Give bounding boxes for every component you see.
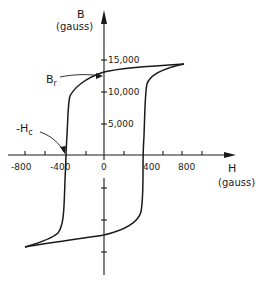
h-tick-800: 800	[178, 162, 195, 172]
hc-label: -Hc	[16, 122, 33, 137]
hc-leader	[40, 132, 64, 152]
b-axis-unit: (gauss)	[56, 21, 93, 32]
hc-arrow-icon	[60, 146, 66, 154]
h-tick-400: 400	[143, 162, 160, 172]
h-axis-arrow-icon	[224, 152, 236, 158]
br-label: Br	[46, 73, 58, 88]
b-tick-5000: 5,000	[108, 119, 134, 129]
h-axis-ticks	[25, 151, 202, 155]
b-tick-10000: 10,000	[108, 87, 140, 97]
b-tick-15000: 15,000	[108, 55, 140, 65]
diagram-svg: B (gauss) H (gauss) 15,000 10,000 5,000 …	[0, 0, 263, 289]
h-axis-symbol: H	[228, 162, 236, 175]
annotation-leaders	[40, 75, 101, 152]
h-tick-0: 0	[101, 162, 107, 172]
b-axis-arrow-icon	[101, 10, 107, 24]
h-tick-neg800: -800	[11, 162, 32, 172]
hysteresis-diagram: B (gauss) H (gauss) 15,000 10,000 5,000 …	[0, 0, 263, 289]
h-tick-neg400: -400	[50, 162, 71, 172]
h-axis-unit: (gauss)	[218, 177, 255, 188]
b-axis-symbol: B	[77, 8, 85, 21]
